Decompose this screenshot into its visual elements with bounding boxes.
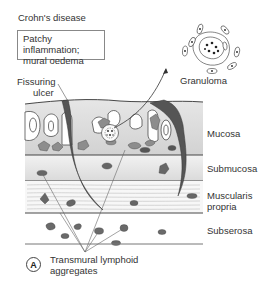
panel-label: A <box>26 257 41 272</box>
lymphoid-label-2: aggregates <box>50 265 98 276</box>
summary-line-2: mural oedema <box>23 55 104 66</box>
layer-label-submucosa: Submucosa <box>207 163 257 174</box>
layer-label-propria: propria <box>207 201 237 212</box>
granuloma-label: Granuloma <box>180 75 227 86</box>
layer-label-muscularis: Muscularis <box>207 190 252 201</box>
layer-label-subserosa: Subserosa <box>207 225 252 236</box>
fissuring-ulcer-label-1: Fissuring <box>17 76 56 87</box>
submucosa-layer <box>25 155 203 181</box>
summary-line-1: Patchy inflammation; <box>23 33 104 55</box>
lymphoid-label-1: Transmural lymphoid <box>50 254 138 265</box>
figure-title: Crohn's disease <box>18 12 86 23</box>
muscularis-propria-layer <box>25 181 203 213</box>
layer-label-mucosa: Mucosa <box>207 128 240 139</box>
fissuring-ulcer-label-2: ulcer <box>33 87 54 98</box>
summary-box: Patchy inflammation; mural oedema <box>17 30 105 60</box>
granuloma-detail <box>182 24 240 74</box>
